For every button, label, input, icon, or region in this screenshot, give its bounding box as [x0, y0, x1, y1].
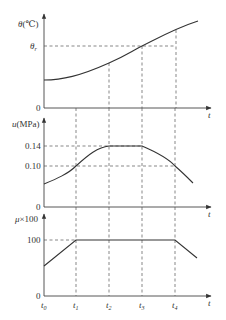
x-tick-t0: t0 [41, 300, 47, 311]
mu-curve [44, 240, 197, 266]
zero-label: 0 [36, 103, 41, 113]
x-axis-label: t [208, 209, 211, 219]
tick-label-100: 100 [27, 235, 41, 245]
y-axis-label: u(MPa) [12, 119, 40, 129]
y-axis-label: θ(℃) [18, 19, 38, 29]
temperature-curve [44, 21, 198, 80]
x-tick-t1: t1 [73, 300, 79, 311]
tick-label-0-14: 0.14 [25, 141, 41, 151]
panel-temperature: θ(℃) θr 0 t [18, 14, 211, 120]
pressure-curve [44, 146, 193, 184]
figure: θ(℃) θr 0 t u(MPa) 0.14 0.10 0 t [0, 0, 226, 320]
theta-r-label: θr [30, 41, 37, 52]
x-tick-t2: t2 [106, 300, 112, 311]
y-axis-label: μ×100 [14, 214, 39, 224]
zero-label: 0 [36, 202, 41, 212]
x-tick-t4: t4 [172, 300, 178, 311]
tick-label-0-10: 0.10 [25, 161, 41, 171]
x-axis-label: t [208, 298, 211, 308]
panel-mu: μ×100 100 0 t t0 t1 t2 t3 t4 [14, 207, 211, 311]
x-tick-t3: t3 [139, 300, 145, 311]
panel-pressure: u(MPa) 0.14 0.10 0 t [12, 108, 211, 219]
x-axis-label: t [208, 110, 211, 120]
